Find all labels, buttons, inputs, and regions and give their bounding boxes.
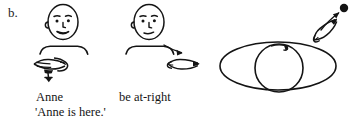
translation-line: 'Anne is here.' [35,105,106,120]
figure-illustration: b. [0,0,358,123]
signer-figure-anne [32,2,118,88]
figure-label: b. [8,6,18,20]
gloss-anne: Anne [36,90,63,105]
flat-hand-pointing-left-icon [30,52,86,86]
target-dot-icon [340,4,348,12]
eye-diagram-panel [218,0,358,100]
index-finger-pointing-up-right-icon [308,0,358,50]
index-finger-pointing-right-icon [163,42,211,80]
signer-figure-be-at-right [118,2,204,88]
gloss-be-at-right: be at-right [119,90,171,105]
